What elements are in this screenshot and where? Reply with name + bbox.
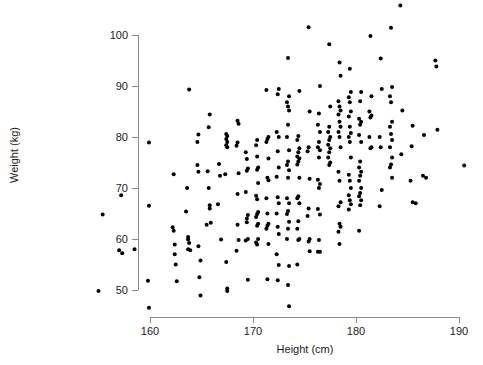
data-point [400,108,404,112]
data-point [338,179,342,183]
data-point [185,186,189,190]
data-point [338,104,342,108]
data-point [275,130,279,134]
data-point [388,166,392,170]
data-point [308,249,312,253]
data-point [410,144,414,148]
data-point [287,220,291,224]
data-point [287,108,291,112]
data-point [326,155,330,159]
data-point [255,168,259,172]
x-tick-label: 180 [347,325,365,337]
data-point [265,212,269,216]
data-point [276,149,280,153]
data-point [414,201,418,205]
data-point [266,178,270,182]
data-point [327,42,331,46]
data-point [435,128,439,132]
data-point [254,215,258,219]
data-point [390,85,394,89]
data-point [195,163,199,167]
data-point [245,157,249,161]
y-tick-label: 70 [116,182,128,194]
data-point [336,99,340,103]
data-point [277,201,281,205]
data-point [286,176,290,180]
data-point [198,258,202,262]
data-point [275,175,279,179]
data-point [235,144,239,148]
data-point [236,192,240,196]
data-point [358,174,362,178]
data-point [286,159,290,163]
data-point [318,182,322,186]
data-point [318,250,322,254]
data-point [358,203,362,207]
data-point [336,204,340,208]
data-point [237,171,241,175]
data-point [244,190,248,194]
data-point [388,125,392,129]
data-point [369,94,373,98]
data-point [347,95,351,99]
data-point [380,87,384,91]
data-point [286,123,290,127]
data-point [147,306,151,310]
data-point [359,198,363,202]
data-point [358,123,362,127]
data-point [297,176,301,180]
data-point [348,67,352,71]
data-point [216,202,220,206]
data-point [347,193,351,197]
data-point [326,130,330,134]
data-point [277,232,281,236]
data-point [119,193,123,197]
data-point [276,225,280,229]
data-point [317,140,321,144]
x-axis-title: Height (cm) [277,343,334,355]
data-point [296,134,300,138]
data-point [338,120,342,124]
data-point [422,133,426,137]
data-point [275,212,279,216]
data-point [357,229,361,233]
x-tick-label: 170 [244,325,262,337]
data-point [287,168,291,172]
y-tick-label: 80 [116,131,128,143]
data-point [339,125,343,129]
data-point [296,219,300,223]
data-point [326,143,330,147]
data-point [286,104,290,108]
data-point [318,213,322,217]
data-point [256,237,260,241]
y-axis: 5060708090100 [110,29,138,296]
data-point [348,100,352,104]
data-point [318,148,322,152]
data-point [462,164,466,168]
data-point [339,108,343,112]
data-point [308,110,312,114]
data-point [358,99,362,103]
data-point [338,135,342,139]
data-point [296,238,300,242]
data-point [197,275,201,279]
data-point [172,172,176,176]
data-point [368,146,372,150]
data-point [237,238,241,242]
data-point [236,223,240,227]
data-point [357,133,361,137]
data-point [286,56,290,60]
data-point [357,166,361,170]
data-point [295,227,299,231]
data-point [378,135,382,139]
data-point [287,148,291,152]
data-point [245,169,249,173]
data-point [424,176,428,180]
data-point [225,145,229,149]
data-point [235,249,239,253]
data-point [349,131,353,135]
data-point [434,65,438,69]
data-point [399,152,403,156]
x-tick-label: 190 [450,325,468,337]
data-point [287,304,291,308]
